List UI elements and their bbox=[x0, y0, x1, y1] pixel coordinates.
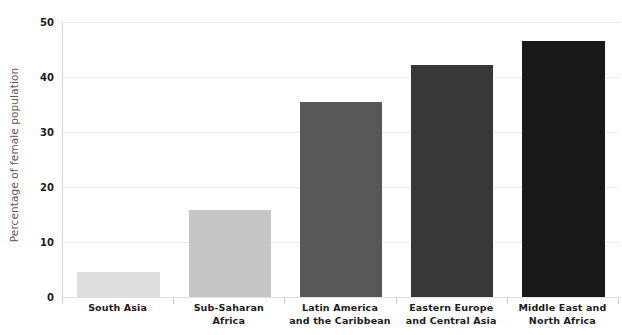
x-axis-category-label: Eastern Europeand Central Asia bbox=[396, 302, 507, 327]
x-axis-category-label-line2: and Central Asia bbox=[396, 315, 507, 328]
bar[interactable] bbox=[189, 210, 271, 297]
bar-chart: Percentage of female population 01020304… bbox=[0, 0, 622, 335]
y-axis-tick-label: 20 bbox=[40, 182, 54, 193]
x-axis-category-label: South Asia bbox=[62, 302, 173, 315]
x-axis-category-label-line1: Latin America bbox=[302, 302, 378, 313]
x-axis-category-label-line2: Africa bbox=[173, 315, 284, 328]
y-axis-title: Percentage of female population bbox=[0, 0, 28, 310]
y-axis-tick-label: 50 bbox=[40, 17, 54, 28]
bar[interactable] bbox=[411, 65, 493, 297]
x-axis-category-label: Latin Americaand the Caribbean bbox=[284, 302, 395, 327]
y-axis-tick-labels: 01020304050 bbox=[28, 0, 60, 335]
x-axis-category-label-line1: Sub-Saharan bbox=[194, 302, 264, 313]
y-axis-tick-label: 10 bbox=[40, 237, 54, 248]
y-axis-title-text: Percentage of female population bbox=[8, 68, 20, 242]
x-axis-category-label-line2: and the Caribbean bbox=[284, 315, 395, 328]
bar[interactable] bbox=[77, 272, 159, 297]
x-axis-category-label-line1: Eastern Europe bbox=[409, 302, 493, 313]
bar[interactable] bbox=[300, 102, 382, 297]
x-axis-category-label: Middle East andNorth Africa bbox=[507, 302, 618, 327]
x-axis-category-label-line1: Middle East and bbox=[518, 302, 606, 313]
y-axis-tick-label: 40 bbox=[40, 72, 54, 83]
x-axis-category-label: Sub-SaharanAfrica bbox=[173, 302, 284, 327]
bar[interactable] bbox=[522, 41, 604, 297]
x-axis-category-label-line2: North Africa bbox=[507, 315, 618, 328]
bars-layer bbox=[63, 22, 619, 297]
y-axis-tick-label: 30 bbox=[40, 127, 54, 138]
x-axis-category-labels: South AsiaSub-SaharanAfricaLatin America… bbox=[0, 302, 622, 335]
gridline bbox=[63, 297, 619, 298]
plot-area bbox=[62, 22, 619, 297]
x-axis-category-label-line1: South Asia bbox=[88, 302, 147, 313]
y-axis-tick-label: 0 bbox=[47, 292, 54, 303]
